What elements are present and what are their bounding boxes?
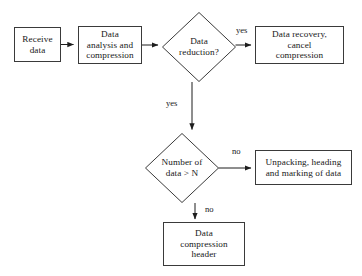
node-compression-header xyxy=(164,223,245,266)
node-receive-data xyxy=(15,28,61,62)
node-number-of-data xyxy=(146,134,219,203)
flowchart-canvas: Receive data Data analysis and compressi… xyxy=(0,0,362,276)
edge-label-number-no: no xyxy=(232,147,241,156)
edge-label-reduction-yes-down: yes xyxy=(166,99,177,108)
node-unpacking xyxy=(256,151,352,185)
edge-label-reduction-yes: yes xyxy=(236,26,247,35)
flowchart-shapes-layer xyxy=(0,0,362,276)
edge-label-number-no-down: no xyxy=(205,205,214,214)
node-data-analysis xyxy=(79,27,142,64)
node-data-reduction xyxy=(163,13,236,82)
node-data-recovery xyxy=(256,27,344,64)
